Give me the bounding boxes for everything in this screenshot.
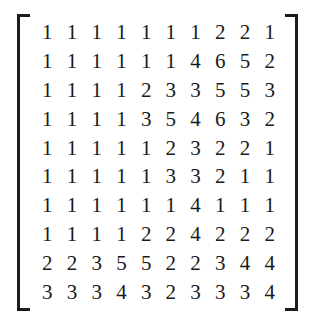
- matrix-cell: 2: [208, 224, 233, 245]
- matrix-cell: 2: [159, 282, 184, 303]
- matrix-cell: 3: [233, 109, 258, 130]
- matrix-cell: 2: [233, 138, 258, 159]
- matrix-cell: 2: [159, 253, 184, 274]
- matrix-cell: 6: [208, 51, 233, 72]
- matrix-cell: 3: [183, 138, 208, 159]
- matrix-cell: 2: [159, 138, 184, 159]
- matrix-grid: 1111111221111111465211112335531111354632…: [31, 14, 284, 311]
- matrix-cell: 1: [109, 51, 134, 72]
- matrix-cell: 1: [60, 224, 85, 245]
- matrix-cell: 2: [257, 224, 282, 245]
- matrix-cell: 3: [60, 282, 85, 303]
- matrix-cell: 1: [134, 195, 159, 216]
- right-square-bracket: [284, 14, 298, 311]
- matrix-cell: 5: [134, 253, 159, 274]
- matrix-cell: 3: [183, 80, 208, 101]
- matrix-cell: 1: [233, 166, 258, 187]
- matrix-cell: 1: [257, 138, 282, 159]
- matrix-cell: 5: [233, 80, 258, 101]
- matrix-cell: 4: [183, 224, 208, 245]
- matrix-cell: 1: [84, 224, 109, 245]
- matrix-cell: 1: [60, 80, 85, 101]
- matrix-cell: 1: [159, 51, 184, 72]
- matrix-cell: 4: [183, 109, 208, 130]
- matrix-cell: 1: [35, 138, 60, 159]
- matrix-cell: 4: [183, 51, 208, 72]
- matrix-cell: 1: [257, 195, 282, 216]
- matrix-cell: 2: [60, 253, 85, 274]
- matrix-cell: 1: [84, 109, 109, 130]
- matrix-cell: 3: [233, 282, 258, 303]
- matrix-cell: 1: [60, 166, 85, 187]
- matrix-cell: 1: [35, 166, 60, 187]
- matrix-cell: 1: [35, 224, 60, 245]
- matrix-cell: 3: [134, 282, 159, 303]
- matrix-bracket-group: 1111111221111111465211112335531111354632…: [17, 14, 298, 311]
- matrix-cell: 1: [35, 80, 60, 101]
- matrix-cell: 4: [109, 282, 134, 303]
- matrix-cell: 1: [60, 22, 85, 43]
- matrix-cell: 1: [109, 166, 134, 187]
- matrix-cell: 1: [109, 195, 134, 216]
- matrix-cell: 1: [233, 195, 258, 216]
- matrix-cell: 1: [84, 80, 109, 101]
- matrix-cell: 4: [183, 195, 208, 216]
- matrix-cell: 1: [60, 195, 85, 216]
- matrix-cell: 1: [134, 166, 159, 187]
- matrix-cell: 1: [109, 138, 134, 159]
- matrix-cell: 5: [109, 253, 134, 274]
- left-square-bracket: [17, 14, 31, 311]
- matrix-cell: 1: [208, 195, 233, 216]
- matrix-cell: 2: [134, 80, 159, 101]
- right-bracket-stem: [295, 14, 298, 311]
- matrix-cell: 3: [35, 282, 60, 303]
- matrix-cell: 1: [109, 109, 134, 130]
- matrix-cell: 5: [159, 109, 184, 130]
- matrix-cell: 1: [60, 138, 85, 159]
- matrix-cell: 1: [84, 166, 109, 187]
- matrix-cell: 2: [208, 166, 233, 187]
- left-bracket-stem: [17, 14, 20, 311]
- matrix-cell: 3: [208, 282, 233, 303]
- matrix-cell: 4: [233, 253, 258, 274]
- matrix-cell: 5: [233, 51, 258, 72]
- matrix-cell: 3: [159, 80, 184, 101]
- matrix-cell: 1: [159, 22, 184, 43]
- matrix-cell: 3: [183, 282, 208, 303]
- matrix-cell: 3: [84, 282, 109, 303]
- matrix-cell: 3: [134, 109, 159, 130]
- matrix-cell: 1: [159, 195, 184, 216]
- matrix-cell: 1: [84, 22, 109, 43]
- matrix-figure: 1111111221111111465211112335531111354632…: [0, 0, 315, 332]
- matrix-cell: 3: [84, 253, 109, 274]
- matrix-cell: 1: [134, 51, 159, 72]
- matrix-cell: 2: [257, 109, 282, 130]
- matrix-cell: 1: [84, 138, 109, 159]
- matrix-cell: 1: [84, 195, 109, 216]
- matrix-cell: 2: [257, 51, 282, 72]
- matrix-cell: 1: [35, 109, 60, 130]
- matrix-cell: 2: [35, 253, 60, 274]
- matrix-cell: 6: [208, 109, 233, 130]
- matrix-cell: 4: [257, 253, 282, 274]
- matrix-cell: 1: [134, 138, 159, 159]
- matrix-cell: 1: [35, 51, 60, 72]
- matrix-cell: 3: [183, 166, 208, 187]
- matrix-cell: 1: [257, 22, 282, 43]
- matrix-cell: 1: [109, 80, 134, 101]
- matrix-cell: 5: [208, 80, 233, 101]
- matrix-cell: 3: [159, 166, 184, 187]
- matrix-cell: 1: [84, 51, 109, 72]
- matrix-cell: 1: [257, 166, 282, 187]
- matrix-cell: 1: [183, 22, 208, 43]
- matrix-cell: 3: [208, 253, 233, 274]
- matrix-cell: 2: [233, 22, 258, 43]
- matrix-cell: 1: [35, 22, 60, 43]
- matrix-cell: 1: [60, 51, 85, 72]
- matrix-cell: 2: [159, 224, 184, 245]
- matrix-cell: 4: [257, 282, 282, 303]
- matrix-cell: 2: [208, 138, 233, 159]
- matrix-cell: 1: [109, 224, 134, 245]
- matrix-cell: 1: [35, 195, 60, 216]
- matrix-cell: 1: [60, 109, 85, 130]
